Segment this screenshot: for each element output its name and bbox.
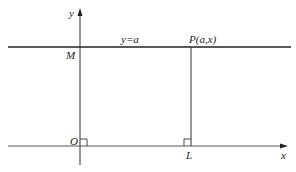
y-axis xyxy=(78,8,83,165)
y-axis-label: y xyxy=(68,7,74,19)
right-angle-mark-L xyxy=(184,139,191,146)
coordinate-diagram: y M O L x y=a P(a,x) xyxy=(0,0,296,172)
x-axis xyxy=(8,144,288,149)
point-P-label: P(a,x) xyxy=(188,33,217,46)
origin-label: O xyxy=(70,135,78,147)
y-axis-arrow-icon xyxy=(78,8,83,16)
x-axis-label: x xyxy=(280,149,286,161)
point-L-label: L xyxy=(185,149,192,161)
right-angle-mark-O xyxy=(80,139,87,146)
line-equation-label: y=a xyxy=(120,33,139,45)
point-M-label: M xyxy=(65,49,76,61)
x-axis-arrow-icon xyxy=(280,144,288,149)
